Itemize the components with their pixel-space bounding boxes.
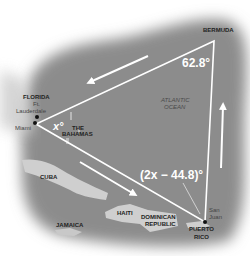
miami-label: Miami [15,125,31,131]
san-juan-label-2: Juan [209,214,222,220]
puerto-rico-label-1: PUERTO [189,226,214,232]
florida-label: FLORIDA [23,94,50,100]
san-juan-label-1: San [209,207,220,213]
ft-lauderdale-dot [35,115,39,119]
bermuda-label: BERMUDA [203,27,234,33]
bermuda-angle: 62.8° [182,56,210,70]
ft-lauderdale-label-1: Ft. [33,101,40,107]
atlantic-label-2: OCEAN [164,104,185,110]
ft-lauderdale-label-2: Lauderdale [16,108,46,114]
dominican-label-2: REPUBLIC [145,221,176,227]
dominican-label-1: DOMINICAN [141,214,176,220]
san-juan-dot [203,220,207,224]
bahamas-label-2: BAHAMAS [62,131,93,137]
puerto-rico-label-2: RICO [194,234,209,240]
haiti-label: HAITI [117,210,133,216]
atlantic-label-1: ATLANTIC [161,97,190,103]
puerto-rico-angle: (2x − 44.8)° [140,168,203,182]
cuba-label: CUBA [40,174,57,180]
jamaica-label: JAMAICA [56,222,83,228]
miami-dot [33,121,37,125]
